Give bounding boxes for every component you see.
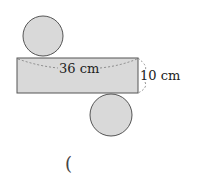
cylinder-net-figure [0,0,200,181]
bottom-base-circle [90,94,132,136]
height-label: 10 cm [140,69,180,82]
length-label: 36 cm [59,62,99,75]
top-base-circle [23,16,63,56]
answer-open-paren: ( [65,155,72,173]
